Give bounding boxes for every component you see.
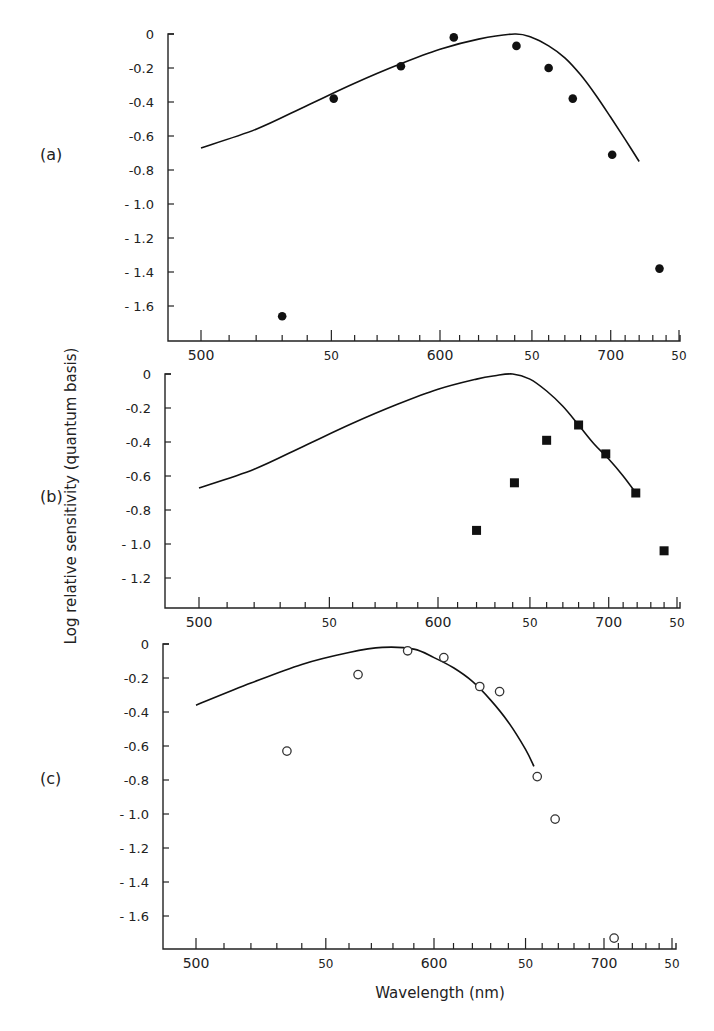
panel-label: (b) [40,487,63,506]
y-tick-label: -0.2 [124,671,149,686]
x-tick-label: 50 [669,616,684,630]
x-tick-label: 600 [427,347,454,363]
x-tick-label: 500 [183,955,210,971]
y-tick-label: - 1.0 [122,537,152,552]
panel-b: (b)0-0.2-0.4-0.6-0.8- 1.0- 1.25005060050… [40,367,685,630]
x-tick-label: 50 [664,957,679,971]
y-tick-label: 0 [143,367,151,382]
panel-label: (a) [40,145,62,164]
spectral-sensitivity-figure: Log relative sensitivity (quantum basis)… [0,0,714,1031]
y-tick-label: -0.2 [129,61,154,76]
data-point-open-circle [495,687,503,695]
y-tick-label: -0.6 [124,739,149,754]
fitted-curve [196,647,534,766]
y-axis-title: Log relative sensitivity (quantum basis) [62,348,80,645]
y-tick-label: -0.6 [129,129,154,144]
y-tick-label: -0.4 [126,435,151,450]
x-tick-label: 700 [597,347,624,363]
data-point-open-circle [533,772,541,780]
data-point-filled-circle [544,64,553,73]
data-point-open-circle [476,682,484,690]
x-tick-label: 500 [188,347,215,363]
data-point-open-circle [610,934,618,942]
data-point-open-circle [283,747,291,755]
x-tick-label: 600 [425,614,452,630]
data-point-filled-circle [449,33,458,42]
x-tick-label: 50 [518,957,533,971]
y-tick-label: - 1.6 [125,299,155,314]
panel-a: (a)0-0.2-0.4-0.6-0.8- 1.0- 1.2- 1.4- 1.6… [40,27,687,363]
x-tick-label: 600 [421,955,448,971]
y-tick-label: -0.8 [126,503,151,518]
data-point-filled-circle [512,42,521,51]
data-point-square [472,526,481,535]
data-point-square [574,421,583,430]
data-point-open-circle [551,815,559,823]
x-tick-label: 50 [524,349,539,363]
panel-c: (c)0-0.2-0.4-0.6-0.8- 1.0- 1.2- 1.4- 1.6… [40,637,680,971]
y-tick-label: -0.2 [126,401,151,416]
x-tick-label: 50 [322,616,337,630]
x-tick-label: 50 [318,957,333,971]
data-point-filled-circle [278,312,287,321]
data-point-open-circle [354,670,362,678]
y-tick-label: - 1.6 [120,909,150,924]
x-tick-label: 50 [522,616,537,630]
x-tick-label: 500 [186,614,213,630]
axis-lines [163,644,676,949]
data-point-square [601,449,610,458]
chart-canvas: Log relative sensitivity (quantum basis)… [0,0,714,1031]
fitted-curve [199,374,637,495]
data-point-filled-circle [397,62,406,71]
y-tick-label: - 1.4 [120,875,150,890]
y-tick-label: -0.8 [124,773,149,788]
y-tick-label: - 1.4 [125,265,155,280]
x-tick-label: 50 [671,349,686,363]
data-point-square [542,436,551,445]
y-tick-label: - 1.0 [125,197,155,212]
y-tick-label: 0 [141,637,149,652]
y-tick-label: -0.4 [124,705,149,720]
axis-lines [165,374,680,608]
y-tick-label: - 1.2 [125,231,155,246]
x-tick-label: 50 [324,349,339,363]
data-point-filled-circle [608,150,617,159]
data-point-square [660,546,669,555]
x-tick-label: 700 [591,955,618,971]
data-point-square [510,478,519,487]
y-tick-label: - 1.0 [120,807,150,822]
y-tick-label: 0 [146,27,154,42]
data-point-filled-circle [655,264,664,273]
data-point-open-circle [403,647,411,655]
y-tick-label: - 1.2 [122,571,152,586]
panel-label: (c) [40,769,61,788]
y-tick-label: -0.8 [129,163,154,178]
data-point-filled-circle [329,94,338,103]
y-tick-label: - 1.2 [120,841,150,856]
data-point-filled-circle [568,94,577,103]
y-tick-label: -0.6 [126,469,151,484]
x-axis-title: Wavelength (nm) [375,984,505,1002]
x-tick-label: 700 [595,614,622,630]
data-point-square [631,489,640,498]
y-tick-label: -0.4 [129,95,154,110]
axis-lines [168,34,680,341]
data-point-open-circle [440,653,448,661]
